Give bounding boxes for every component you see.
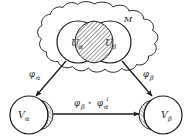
phi-beta-label: φ β bbox=[143, 69, 154, 82]
svg-text:α: α bbox=[25, 115, 30, 123]
chart-image-v-alpha bbox=[10, 96, 53, 134]
svg-text:φ: φ bbox=[74, 98, 80, 108]
svg-text:φ: φ bbox=[97, 98, 103, 108]
svg-text:α: α bbox=[104, 103, 109, 111]
svg-text:β: β bbox=[149, 74, 154, 82]
svg-text:α: α bbox=[36, 74, 41, 82]
phi-alpha-label: φ α bbox=[29, 69, 41, 82]
svg-text:β: β bbox=[112, 43, 117, 51]
svg-text:∘: ∘ bbox=[88, 99, 91, 107]
svg-text:β: β bbox=[167, 115, 172, 123]
svg-text:α: α bbox=[79, 43, 84, 51]
svg-text:φ: φ bbox=[143, 69, 149, 79]
transition-map-label: φ β ∘ φ α -1 bbox=[74, 96, 109, 111]
svg-text:β: β bbox=[80, 103, 85, 111]
phi-alpha-arrow bbox=[36, 61, 66, 96]
svg-text:-1: -1 bbox=[104, 96, 109, 102]
svg-text:φ: φ bbox=[29, 69, 35, 79]
manifold-transition-figure: M U α U β V α bbox=[0, 0, 188, 138]
manifold-label: M bbox=[123, 15, 133, 24]
